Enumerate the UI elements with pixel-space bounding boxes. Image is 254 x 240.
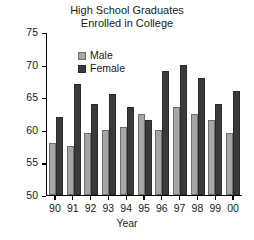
- x-tick-mark: [126, 196, 127, 200]
- bar-groups: [47, 33, 242, 195]
- bar-female-91: [74, 84, 81, 195]
- bar-male-91: [67, 146, 74, 195]
- bar-male-96: [155, 130, 162, 195]
- x-tick-label: 95: [138, 202, 150, 215]
- bar-male-00: [226, 133, 233, 195]
- y-tick-label: 60: [26, 124, 38, 137]
- bar-male-92: [84, 133, 91, 195]
- bar-female-95: [145, 120, 152, 195]
- x-tick-label: 92: [85, 202, 97, 215]
- bar-female-94: [127, 107, 134, 195]
- bar-female-98: [198, 78, 205, 195]
- x-tick-mark: [179, 196, 180, 200]
- bar-female-97: [180, 65, 187, 195]
- y-tick-label: 75: [26, 26, 38, 39]
- x-tick-mark: [232, 196, 233, 200]
- x-tick-label: 90: [49, 202, 61, 215]
- bar-group-99: [207, 33, 225, 195]
- bar-group-98: [189, 33, 207, 195]
- bar-female-93: [109, 94, 116, 195]
- x-tick-label: 97: [174, 202, 186, 215]
- bar-group-97: [171, 33, 189, 195]
- x-tick-label: 98: [192, 202, 204, 215]
- bar-male-98: [191, 114, 198, 196]
- x-tick-mark: [54, 196, 55, 200]
- legend-swatch-male-icon: [78, 52, 86, 60]
- bar-group-95: [136, 33, 154, 195]
- legend-item-female: Female: [78, 62, 125, 75]
- bar-female-00: [233, 91, 240, 195]
- bar-male-97: [173, 107, 180, 195]
- x-tick-mark: [90, 196, 91, 200]
- bar-group-00: [224, 33, 242, 195]
- x-tick-mark: [215, 196, 216, 200]
- y-tick-label: 55: [26, 156, 38, 169]
- y-tick-label: 65: [26, 91, 38, 104]
- bar-male-99: [208, 120, 215, 195]
- x-tick-mark: [197, 196, 198, 200]
- plot-area: [46, 33, 242, 196]
- x-tick-label: 91: [67, 202, 79, 215]
- bar-male-93: [102, 130, 109, 195]
- x-tick-label: 93: [103, 202, 115, 215]
- legend-swatch-female-icon: [78, 65, 86, 73]
- bar-male-90: [49, 143, 56, 195]
- y-tick-label: 70: [26, 59, 38, 72]
- legend-label-male: Male: [90, 49, 113, 62]
- bar-group-96: [153, 33, 171, 195]
- x-tick-mark: [143, 196, 144, 200]
- x-tick-mark: [72, 196, 73, 200]
- x-tick-mark: [161, 196, 162, 200]
- bar-male-94: [120, 127, 127, 195]
- chart-title-line-2: Enrolled in College: [0, 17, 254, 30]
- legend-item-male: Male: [78, 49, 125, 62]
- bar-female-92: [91, 104, 98, 195]
- bar-female-99: [215, 104, 222, 195]
- x-axis-title: Year: [0, 217, 254, 229]
- x-tick-label: 00: [227, 202, 239, 215]
- x-tick-label: 96: [156, 202, 168, 215]
- x-tick-label: 94: [120, 202, 132, 215]
- chart-title-line-1: High School Graduates: [0, 4, 254, 17]
- bar-group-90: [47, 33, 65, 195]
- legend-label-female: Female: [90, 62, 125, 75]
- bar-female-90: [56, 117, 63, 195]
- chart-title: High School Graduates Enrolled in Colleg…: [0, 4, 254, 30]
- chart-figure: High School Graduates Enrolled in Colleg…: [0, 0, 254, 240]
- y-tick-label: 50: [26, 189, 38, 202]
- x-tick-mark: [108, 196, 109, 200]
- x-tick-label: 99: [209, 202, 221, 215]
- chart-legend: Male Female: [78, 49, 125, 75]
- bar-male-95: [138, 114, 145, 196]
- bar-female-96: [162, 71, 169, 195]
